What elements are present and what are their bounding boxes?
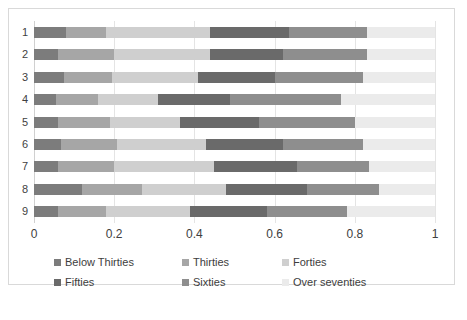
- legend-swatch-icon: [282, 279, 289, 286]
- x-axis-tick-label: 1: [432, 227, 439, 241]
- bar-segment[interactable]: [64, 72, 112, 83]
- bar-segment[interactable]: [58, 161, 114, 172]
- bar-segment[interactable]: [180, 117, 258, 128]
- bar-segment[interactable]: [106, 206, 190, 217]
- legend-item-thirties[interactable]: Thirties: [182, 256, 282, 268]
- legend-swatch-icon: [54, 279, 61, 286]
- bar-segment[interactable]: [34, 206, 58, 217]
- bar-segment[interactable]: [34, 117, 58, 128]
- x-axis-tick-label: 0.8: [346, 227, 363, 241]
- legend-item-forties[interactable]: Forties: [282, 256, 412, 268]
- bar-track: [34, 94, 435, 105]
- bar-segment[interactable]: [347, 206, 435, 217]
- bar-segment[interactable]: [34, 49, 58, 60]
- bar-segment[interactable]: [58, 49, 114, 60]
- bar-segment[interactable]: [367, 49, 435, 60]
- x-axis: 00.20.40.60.81: [34, 227, 435, 247]
- bar-track: [34, 72, 435, 83]
- bar-segment[interactable]: [114, 161, 214, 172]
- bar-segment[interactable]: [34, 94, 56, 105]
- bar-segment[interactable]: [58, 206, 106, 217]
- bar-segment[interactable]: [82, 184, 142, 195]
- bar-segment[interactable]: [267, 206, 347, 217]
- bar-segment[interactable]: [34, 161, 58, 172]
- bar-segment[interactable]: [34, 27, 66, 38]
- legend-swatch-icon: [282, 259, 289, 266]
- bar-segment[interactable]: [275, 72, 363, 83]
- bar-segment[interactable]: [117, 139, 206, 150]
- bar-segment[interactable]: [283, 49, 367, 60]
- bar-row[interactable]: [34, 139, 435, 150]
- legend-item-below-thirties[interactable]: Below Thirties: [54, 256, 182, 268]
- category-label: 9: [12, 206, 28, 217]
- x-axis-tick-label: 0.4: [186, 227, 203, 241]
- legend-label: Thirties: [193, 256, 229, 268]
- bar-segment[interactable]: [112, 72, 198, 83]
- bar-row[interactable]: [34, 206, 435, 217]
- legend-item-sixties[interactable]: Sixties: [182, 276, 282, 288]
- bar-segment[interactable]: [34, 72, 64, 83]
- bar-segment[interactable]: [341, 94, 435, 105]
- bar-track: [34, 117, 435, 128]
- category-label: 1: [12, 27, 28, 38]
- bar-segment[interactable]: [289, 27, 367, 38]
- bar-segment[interactable]: [106, 27, 210, 38]
- bar-row[interactable]: [34, 27, 435, 38]
- bar-track: [34, 184, 435, 195]
- bar-segment[interactable]: [379, 184, 435, 195]
- bar-segment[interactable]: [283, 139, 363, 150]
- bar-segment[interactable]: [34, 184, 82, 195]
- bar-row[interactable]: [34, 72, 435, 83]
- bar-segment[interactable]: [226, 184, 306, 195]
- bar-segment[interactable]: [58, 117, 110, 128]
- chart-legend: Below Thirties Thirties Forties Fifties …: [54, 252, 414, 292]
- bar-segment[interactable]: [206, 139, 282, 150]
- bar-segment[interactable]: [158, 94, 230, 105]
- bar-row[interactable]: [34, 184, 435, 195]
- category-label: 6: [12, 139, 28, 150]
- bar-segment[interactable]: [210, 27, 288, 38]
- bar-segment[interactable]: [98, 94, 158, 105]
- bar-segment[interactable]: [66, 27, 106, 38]
- bar-segment[interactable]: [142, 184, 226, 195]
- bar-row[interactable]: [34, 94, 435, 105]
- bar-segment[interactable]: [56, 94, 98, 105]
- bar-segment[interactable]: [363, 72, 435, 83]
- bar-segment[interactable]: [198, 72, 274, 83]
- bar-segment[interactable]: [114, 49, 210, 60]
- category-label: 8: [12, 184, 28, 195]
- bar-segment[interactable]: [210, 49, 282, 60]
- x-axis-tick-label: 0.6: [266, 227, 283, 241]
- bar-segment[interactable]: [363, 139, 435, 150]
- bar-segment[interactable]: [367, 27, 435, 38]
- x-axis-tick-label: 0.2: [106, 227, 123, 241]
- legend-item-fifties[interactable]: Fifties: [54, 276, 182, 288]
- legend-item-over-seventies[interactable]: Over seventies: [282, 276, 412, 288]
- legend-label: Over seventies: [293, 276, 366, 288]
- bar-segment[interactable]: [355, 117, 435, 128]
- bar-segment[interactable]: [61, 139, 117, 150]
- bar-row[interactable]: [34, 49, 435, 60]
- bar-segment[interactable]: [110, 117, 180, 128]
- bar-segment[interactable]: [259, 117, 355, 128]
- bar-segment[interactable]: [297, 161, 369, 172]
- bar-segment[interactable]: [34, 139, 61, 150]
- legend-swatch-icon: [182, 259, 189, 266]
- gridline: [435, 21, 436, 223]
- legend-swatch-icon: [54, 259, 61, 266]
- bar-row[interactable]: [34, 117, 435, 128]
- bar-segment[interactable]: [230, 94, 340, 105]
- bar-segment[interactable]: [214, 161, 296, 172]
- category-label: 7: [12, 161, 28, 172]
- bar-track: [34, 161, 435, 172]
- legend-label: Forties: [293, 256, 327, 268]
- bar-track: [34, 139, 435, 150]
- bar-segment[interactable]: [190, 206, 266, 217]
- category-label: 2: [12, 49, 28, 60]
- bar-segment[interactable]: [307, 184, 379, 195]
- x-axis-tick-label: 0: [31, 227, 38, 241]
- bar-segment[interactable]: [369, 161, 435, 172]
- legend-row-2: Fifties Sixties Over seventies: [54, 272, 414, 292]
- category-label: 5: [12, 117, 28, 128]
- bar-row[interactable]: [34, 161, 435, 172]
